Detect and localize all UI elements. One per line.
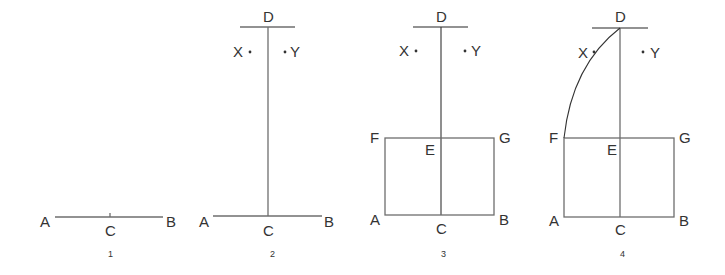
point-x — [249, 51, 252, 54]
label-f: F — [370, 129, 379, 146]
construction-diagram: A B C 1 D X Y A B C 2 D X Y F G E A B C … — [0, 0, 725, 275]
label-d: D — [436, 8, 447, 25]
point-x — [593, 51, 596, 54]
panel-number: 4 — [620, 249, 625, 259]
panel-number: 1 — [108, 249, 113, 259]
panel-1: A B C 1 — [40, 213, 176, 259]
label-c: C — [105, 222, 116, 239]
point-x — [415, 50, 418, 53]
panel-number: 3 — [441, 249, 446, 259]
label-x: X — [233, 43, 243, 60]
label-c: C — [615, 221, 626, 238]
label-y: Y — [471, 42, 481, 59]
point-y — [464, 50, 467, 53]
label-b: B — [499, 211, 509, 228]
label-f: F — [549, 129, 558, 146]
arc-fd — [564, 28, 620, 138]
label-a: A — [40, 213, 50, 230]
label-a: A — [370, 211, 380, 228]
label-c: C — [263, 222, 274, 239]
rectangle-abgf — [385, 138, 494, 215]
label-c: C — [436, 220, 447, 237]
label-b: B — [679, 212, 689, 229]
panel-3: D X Y F G E A B C 3 — [370, 8, 511, 259]
panel-number: 2 — [270, 249, 275, 259]
label-b: B — [166, 213, 176, 230]
label-x: X — [578, 44, 588, 61]
label-a: A — [549, 212, 559, 229]
label-e: E — [425, 141, 435, 158]
label-e: E — [607, 141, 617, 158]
rectangle-abgf — [564, 138, 674, 217]
label-d: D — [263, 8, 274, 25]
label-b: B — [324, 213, 334, 230]
panel-4: D X Y F G E A B C 4 — [549, 8, 691, 259]
label-g: G — [679, 129, 691, 146]
label-x: X — [399, 42, 409, 59]
point-y — [284, 51, 287, 54]
label-y: Y — [290, 43, 300, 60]
label-g: G — [499, 129, 511, 146]
point-y — [642, 51, 645, 54]
label-d: D — [615, 8, 626, 25]
label-y: Y — [650, 44, 660, 61]
label-a: A — [199, 213, 209, 230]
panel-2: D X Y A B C 2 — [199, 8, 334, 259]
